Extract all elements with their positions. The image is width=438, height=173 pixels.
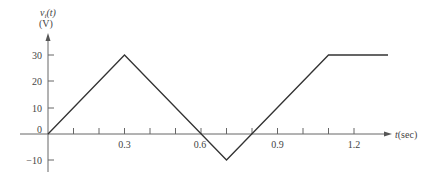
y-ticks: [48, 55, 54, 160]
svg-text:t(sec): t(sec): [395, 129, 417, 141]
x-tick-label-1.2: 1.2: [348, 139, 361, 150]
y-tick-label-0: 0: [37, 124, 42, 135]
x-tick-label-0.9: 0.9: [271, 139, 284, 150]
x-axis-arrow-icon: [384, 132, 392, 137]
y-tick-label-20: 20: [32, 76, 42, 87]
y-tick-labels: 30 20 10 0 −10: [26, 50, 42, 166]
waveform-chart: 30 20 10 0 −10 0.3 0.6 0.9 1.2 vi(t) (V)…: [0, 0, 438, 173]
y-label-unit: (V): [39, 18, 53, 30]
y-tick-label-10: 10: [32, 103, 42, 114]
y-tick-label-neg10: −10: [26, 155, 42, 166]
x-axis-label: t(sec): [395, 129, 417, 141]
x-tick-label-0.3: 0.3: [118, 139, 131, 150]
x-label-unit: (sec): [398, 129, 417, 141]
waveform-line: [48, 55, 388, 160]
x-tick-label-0.6: 0.6: [194, 139, 207, 150]
y-tick-label-30: 30: [32, 50, 42, 61]
y-axis-label: vi(t) (V): [39, 7, 57, 30]
axes: [20, 33, 392, 172]
x-tick-labels: 0.3 0.6 0.9 1.2: [118, 139, 360, 150]
x-ticks: [74, 128, 355, 134]
y-axis-arrow-icon: [46, 33, 51, 41]
